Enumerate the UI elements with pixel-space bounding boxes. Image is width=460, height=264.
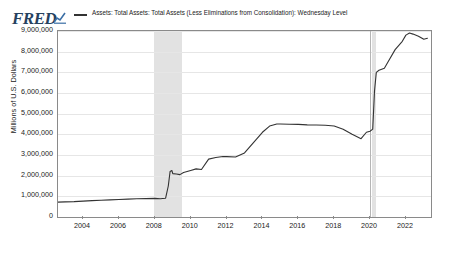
- x-tick-mark: [297, 216, 298, 219]
- x-tick-mark: [333, 216, 334, 219]
- legend: Assets: Total Assets: Total Assets (Less…: [74, 9, 446, 17]
- x-tick-mark: [226, 216, 227, 219]
- x-tick-label: 2022: [385, 222, 425, 230]
- x-tick-mark: [154, 216, 155, 219]
- x-tick-label: 2020: [349, 222, 389, 230]
- x-tick-label: 2008: [134, 222, 174, 230]
- x-tick-mark: [261, 216, 262, 219]
- x-tick-label: 2004: [62, 222, 102, 230]
- fred-chart: FRED Assets: Total Assets: Total Assets …: [0, 0, 460, 264]
- x-tick-label: 2018: [313, 222, 353, 230]
- x-tick-label: 2014: [241, 222, 281, 230]
- y-tick-label: 1,000,000: [1, 191, 53, 199]
- legend-label: Assets: Total Assets: Total Assets (Less…: [92, 9, 348, 17]
- x-tick-mark: [405, 216, 406, 219]
- y-tick-label: 2,000,000: [1, 171, 53, 179]
- y-tick-label: 0: [1, 212, 53, 220]
- x-axis-tick-labels: 2004200620082010201220142016201820202022: [57, 222, 432, 234]
- legend-swatch: [74, 14, 87, 16]
- x-tick-label: 2010: [170, 222, 210, 230]
- x-tick-label: 2016: [277, 222, 317, 230]
- x-tick-label: 2006: [98, 222, 138, 230]
- plot-area: [57, 30, 432, 218]
- x-tick-label: 2012: [206, 222, 246, 230]
- y-axis-title: Millions of U.S. Dollars: [9, 22, 18, 172]
- x-tick-mark: [369, 216, 370, 219]
- x-tick-mark: [82, 216, 83, 219]
- series-line: [58, 31, 431, 217]
- x-tick-mark: [190, 216, 191, 219]
- x-tick-mark: [118, 216, 119, 219]
- chart-line-icon: [54, 12, 66, 24]
